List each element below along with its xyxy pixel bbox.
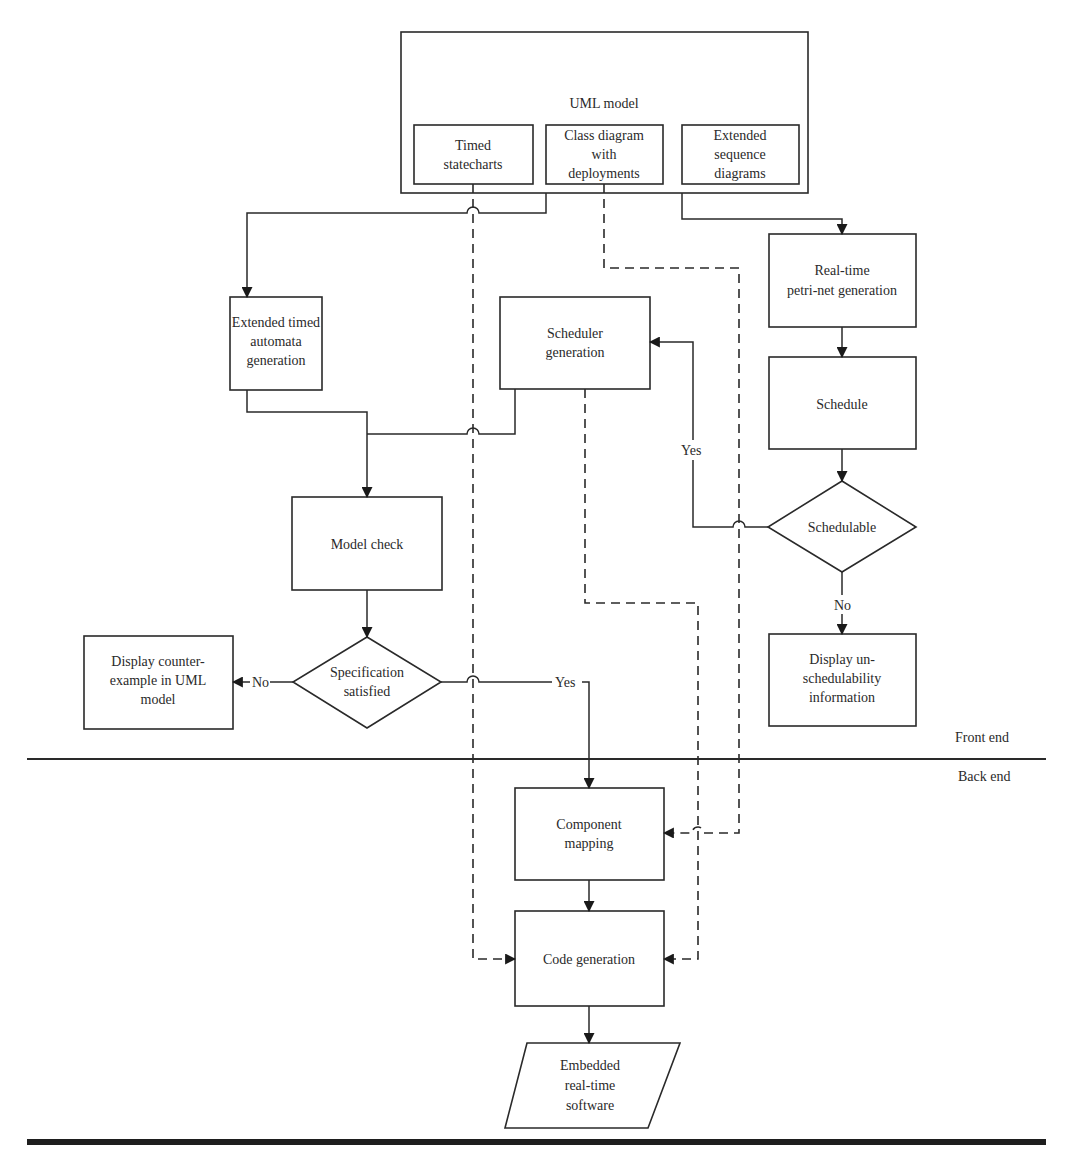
timed-automata-generation-box: Extended timed automata generation — [230, 297, 322, 390]
svg-text:Extended timed: Extended timed — [232, 315, 320, 330]
svg-text:Schedule: Schedule — [816, 397, 867, 412]
edge-uml-to-timed-automata — [247, 193, 546, 297]
svg-text:Timed: Timed — [455, 138, 491, 153]
svg-text:mapping: mapping — [565, 836, 614, 851]
svg-text:petri-net generation: petri-net generation — [787, 283, 897, 298]
svg-text:with: with — [592, 147, 617, 162]
code-generation-box: Code generation — [515, 911, 664, 1006]
svg-text:schedulability: schedulability — [803, 671, 882, 686]
svg-text:Scheduler: Scheduler — [547, 326, 603, 341]
svg-text:diagrams: diagrams — [714, 166, 765, 181]
svg-text:Extended: Extended — [714, 128, 767, 143]
svg-text:sequence: sequence — [714, 147, 765, 162]
specification-satisfied-decision: Specification satisfied — [293, 637, 441, 728]
model-check-box: Model check — [292, 497, 442, 590]
svg-text:Component: Component — [556, 817, 621, 832]
edge-spec-yes — [441, 676, 552, 682]
label-spec-yes: Yes — [555, 675, 575, 690]
svg-text:satisfied: satisfied — [344, 684, 391, 699]
svg-text:deployments: deployments — [568, 166, 640, 181]
flowchart-diagram: UML model Timed statecharts Class diagra… — [0, 0, 1083, 1165]
svg-text:model: model — [141, 692, 176, 707]
scheduler-generation-box: Scheduler generation — [500, 297, 650, 389]
front-end-label: Front end — [955, 730, 1009, 745]
figure-bottom-rule — [27, 1139, 1046, 1145]
svg-text:Schedulable: Schedulable — [808, 520, 876, 535]
uml-model-title: UML model — [569, 96, 638, 111]
svg-text:Real-time: Real-time — [814, 263, 869, 278]
embedded-software-parallelogram: Embedded real-time software — [505, 1043, 680, 1128]
display-counterexample-box: Display counter- example in UML model — [84, 636, 233, 729]
edge-timed-automata-to-model-check — [247, 390, 367, 497]
svg-text:information: information — [809, 690, 875, 705]
schedule-box: Schedule — [769, 357, 916, 449]
svg-text:generation: generation — [246, 353, 305, 368]
class-diagram-box: Class diagram with deployments — [546, 125, 663, 184]
svg-text:Model check: Model check — [331, 537, 404, 552]
edge-schedulable-yes — [693, 460, 768, 527]
edge-scheduler-to-model-check — [367, 389, 515, 434]
svg-text:Specification: Specification — [330, 665, 404, 680]
svg-text:automata: automata — [250, 334, 302, 349]
component-mapping-box: Component mapping — [515, 788, 664, 880]
svg-text:Embedded: Embedded — [560, 1058, 620, 1073]
label-schedulable-no: No — [834, 598, 851, 613]
label-schedulable-yes: Yes — [681, 443, 701, 458]
sequence-diagrams-box: Extended sequence diagrams — [682, 125, 799, 184]
svg-text:Display counter-: Display counter- — [111, 654, 205, 669]
display-unschedulability-box: Display un- schedulability information — [769, 634, 916, 726]
svg-text:generation: generation — [545, 345, 604, 360]
label-spec-no: No — [252, 675, 269, 690]
edge-uml-to-petri-net — [682, 193, 842, 234]
svg-text:Class diagram: Class diagram — [564, 128, 644, 143]
svg-text:Code generation: Code generation — [543, 952, 635, 967]
petri-net-generation-box: Real-time petri-net generation — [769, 234, 916, 327]
svg-text:example in UML: example in UML — [110, 673, 206, 688]
edge-spec-yes-arrow — [582, 682, 589, 788]
timed-statecharts-box: Timed statecharts — [414, 125, 533, 184]
svg-text:real-time: real-time — [565, 1078, 616, 1093]
schedulable-decision: Schedulable — [768, 481, 916, 572]
back-end-label: Back end — [958, 769, 1010, 784]
svg-text:statecharts: statecharts — [443, 157, 502, 172]
svg-text:Display un-: Display un- — [809, 652, 875, 667]
edge-schedulable-yes-arrow — [650, 342, 693, 440]
dashed-edge-class-diagram-to-mapping — [604, 184, 739, 833]
svg-text:software: software — [566, 1098, 614, 1113]
